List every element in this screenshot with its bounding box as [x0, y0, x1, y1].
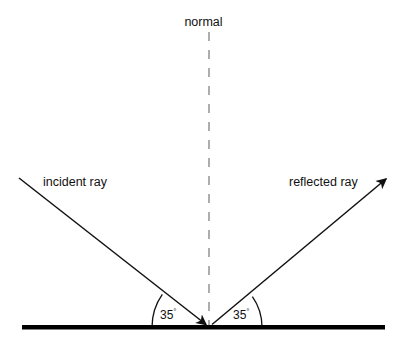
angle-of-reflection-arc: [252, 297, 262, 327]
reflected-ray-line: [212, 179, 386, 325]
normal-label: normal: [0, 16, 407, 29]
angle-of-incidence-label: 35°: [160, 308, 177, 321]
angle-of-reflection-value: 35: [233, 308, 246, 322]
incident-ray-label: incident ray: [43, 176, 107, 189]
degree-symbol-icon: °: [173, 307, 176, 316]
reflected-ray-label: reflected ray: [289, 176, 358, 189]
mirror-surface: [22, 325, 385, 330]
angle-of-incidence-value: 35: [160, 308, 173, 322]
incident-ray-line: [19, 178, 206, 325]
reflection-diagram-canvas: [0, 0, 407, 343]
reflection-diagram: normal incident ray reflected ray 35° 35…: [0, 0, 407, 343]
angle-of-reflection-label: 35°: [233, 308, 250, 321]
degree-symbol-icon: °: [246, 307, 249, 316]
